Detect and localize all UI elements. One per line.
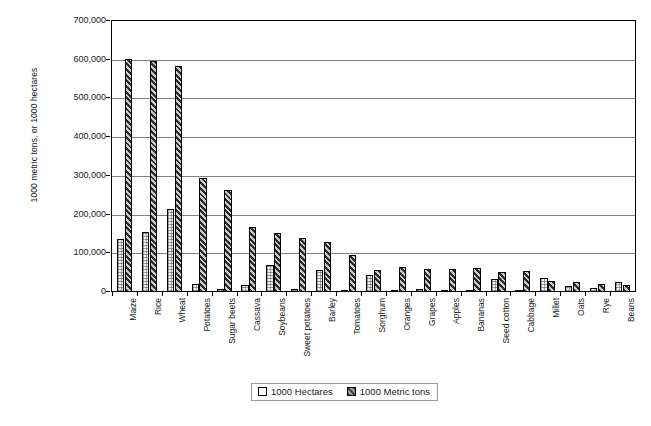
bar-metric-tons: [473, 268, 480, 292]
bar-hectares: [241, 285, 248, 292]
x-axis-tick-mark: [162, 292, 163, 296]
x-axis-category-label: Wheat: [177, 298, 187, 323]
bar-metric-tons: [573, 282, 580, 292]
x-axis-category-label: Barley: [327, 298, 337, 322]
bar-metric-tons: [548, 281, 555, 292]
legend-label-hectares: 1000 Hectares: [271, 387, 333, 397]
legend-label-metric-tons: 1000 Metric tons: [360, 387, 430, 397]
y-axis-tick-mark: [106, 59, 110, 60]
x-axis-tick-mark: [436, 292, 437, 296]
x-axis-tick-mark: [286, 292, 287, 296]
x-axis-tick-mark: [610, 292, 611, 296]
x-axis-tick-mark: [585, 292, 586, 296]
y-axis-title: 1000 metric tons, or 1000 hectares: [29, 35, 39, 235]
x-axis-category-label: Tomatoes: [352, 298, 362, 335]
x-axis-category-label: Beans: [626, 298, 636, 322]
bar-hectares: [615, 282, 622, 292]
bars-layer: [112, 21, 635, 292]
bar-metric-tons: [424, 269, 431, 292]
x-axis-tick-mark: [237, 292, 238, 296]
bar-metric-tons: [498, 272, 505, 292]
x-axis-tick-mark: [261, 292, 262, 296]
bar-metric-tons: [399, 267, 406, 292]
bar-metric-tons: [623, 285, 630, 292]
bar-metric-tons: [523, 271, 530, 292]
x-axis-category-labels: MaizeRiceWheatPotatoesSugar beetsCassava…: [112, 298, 635, 368]
x-axis-category-label: Cabbage: [526, 298, 536, 333]
x-axis-category-label: Sugar beets: [227, 298, 237, 344]
x-axis-category-label: Millet: [551, 298, 561, 318]
bar-metric-tons: [150, 61, 157, 292]
y-axis-tick-mark: [106, 136, 110, 137]
x-axis-category-label: Sweet potatoes: [302, 298, 312, 357]
bar-hectares: [167, 209, 174, 292]
x-axis-category-label: Bananas: [476, 298, 486, 332]
x-axis-category-label: Cassava: [252, 298, 262, 331]
legend-item-metric-tons: 1000 Metric tons: [347, 387, 430, 397]
y-axis-tick-label: 100,000: [44, 247, 106, 257]
y-axis-tick-label: 700,000: [44, 15, 106, 25]
bar-metric-tons: [224, 190, 231, 292]
bar-metric-tons: [199, 178, 206, 292]
x-axis-category-label: Soybeans: [277, 298, 287, 336]
bar-metric-tons: [299, 238, 306, 292]
bar-hectares: [117, 239, 124, 292]
bar-hectares: [366, 275, 373, 292]
x-axis-tick-mark: [386, 292, 387, 296]
x-axis-tick-mark: [535, 292, 536, 296]
x-axis-tick-mark: [212, 292, 213, 296]
x-axis-category-label: Rye: [601, 298, 611, 313]
x-axis-tick-mark: [336, 292, 337, 296]
y-axis-tick-label: 200,000: [44, 209, 106, 219]
x-axis-tick-mark: [361, 292, 362, 296]
x-axis-category-label: Oranges: [402, 298, 412, 331]
x-axis-ticks: [112, 292, 635, 296]
bar-metric-tons: [324, 242, 331, 292]
x-axis-tick-mark: [187, 292, 188, 296]
bar-metric-tons: [374, 270, 381, 292]
y-axis-tick-mark: [106, 291, 110, 292]
y-axis-tick-mark: [106, 252, 110, 253]
bar-hectares: [491, 279, 498, 292]
bar-hectares: [540, 278, 547, 292]
bar-chart: 1000 metric tons, or 1000 hectares 700,0…: [0, 0, 651, 426]
y-axis-tick-label: 600,000: [44, 54, 106, 64]
bar-metric-tons: [274, 233, 281, 292]
x-axis-tick-mark: [461, 292, 462, 296]
x-axis-tick-mark: [137, 292, 138, 296]
x-axis-tick-mark: [411, 292, 412, 296]
x-axis-category-label: Rice: [153, 298, 163, 315]
y-axis-tick-mark: [106, 97, 110, 98]
bar-hectares: [316, 270, 323, 292]
y-axis-tick-mark: [106, 20, 110, 21]
legend-item-hectares: 1000 Hectares: [258, 387, 333, 397]
x-axis-tick-mark: [560, 292, 561, 296]
x-axis-category-label: Apples: [451, 298, 461, 324]
bar-metric-tons: [175, 66, 182, 292]
bar-metric-tons: [349, 255, 356, 292]
y-axis-tick-mark: [106, 214, 110, 215]
y-axis-tick-label: 500,000: [44, 92, 106, 102]
x-axis-tick-mark: [112, 292, 113, 296]
y-axis-tick-label: 300,000: [44, 170, 106, 180]
bar-hectares: [192, 284, 199, 292]
y-axis-tick-label: 0: [44, 286, 106, 296]
x-axis-tick-mark: [510, 292, 511, 296]
x-axis-category-label: Oats: [576, 298, 586, 316]
x-axis-tick-mark: [311, 292, 312, 296]
x-axis-category-label: Sorghum: [377, 298, 387, 333]
bar-metric-tons: [449, 269, 456, 292]
x-axis-category-label: Maize: [128, 298, 138, 321]
x-axis-category-label: Potatoes: [202, 298, 212, 332]
x-axis-tick-mark: [486, 292, 487, 296]
bar-hectares: [266, 265, 273, 292]
metric-tons-swatch-icon: [347, 387, 356, 396]
y-axis-tick-mark: [106, 175, 110, 176]
y-axis-tick-labels: 700,000600,000500,000400,000300,000200,0…: [40, 20, 106, 292]
bar-metric-tons: [249, 227, 256, 292]
hectares-swatch-icon: [258, 387, 267, 396]
y-axis-tick-label: 400,000: [44, 131, 106, 141]
x-axis-category-label: Grapes: [427, 298, 437, 326]
x-axis-category-label: Seed cotton: [501, 298, 511, 343]
bar-metric-tons: [598, 284, 605, 292]
